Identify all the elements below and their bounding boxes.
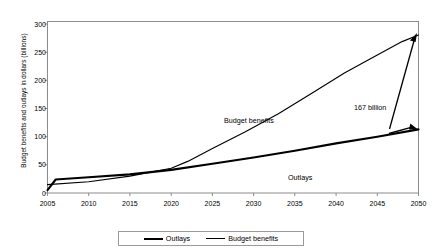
- x-tick-label-2030: 2030: [234, 200, 274, 207]
- chart-container: Budget benefits and outlays in dollars (…: [0, 0, 445, 251]
- inline-label-outlays: Outlays: [288, 173, 312, 182]
- inline-label-budget-benefits: Budget benefits: [224, 116, 274, 125]
- legend-entry-outlays[interactable]: Outlays: [144, 235, 190, 243]
- x-tick-label-2020: 2020: [151, 200, 191, 207]
- x-tick-label-2050: 2050: [399, 200, 439, 207]
- x-tick-label-2015: 2015: [110, 200, 150, 207]
- legend-swatch-outlays: [144, 238, 163, 240]
- annotation-167-billion: 167 billion: [354, 103, 386, 112]
- x-tick-label-2025: 2025: [192, 200, 232, 207]
- x-tick-label-2005: 2005: [28, 200, 68, 207]
- legend-label-budget-benefits: Budget benefits: [228, 235, 278, 243]
- chart-legend: Outlays Budget benefits: [118, 231, 304, 246]
- x-tick-label-2035: 2035: [275, 200, 315, 207]
- x-tick-label-2045: 2045: [357, 200, 397, 207]
- legend-label-outlays: Outlays: [166, 235, 190, 243]
- x-tick-label-group: 2005 2010 2015 2020 2025 2030 2035 2040 …: [0, 0, 445, 251]
- x-tick-label-2010: 2010: [69, 200, 109, 207]
- legend-swatch-budget-benefits: [206, 238, 225, 239]
- legend-entry-budget-benefits[interactable]: Budget benefits: [206, 235, 278, 243]
- x-tick-label-2040: 2040: [316, 200, 356, 207]
